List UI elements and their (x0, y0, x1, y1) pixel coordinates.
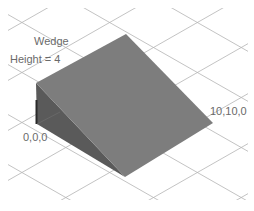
wedge-diagram: Wedge Height = 4 0,0,0 10,10,0 (0, 0, 254, 211)
wedge-title-label: Wedge (34, 35, 69, 47)
wedge-slope-face (36, 34, 213, 177)
corner-coordinate-label: 10,10,0 (210, 105, 247, 117)
height-parameter-label: Height = 4 (10, 53, 60, 65)
wedge-shape (36, 34, 213, 177)
origin-coordinate-label: 0,0,0 (23, 131, 47, 143)
